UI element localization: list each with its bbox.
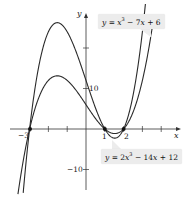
tick-label-10: 10 — [89, 85, 99, 93]
eq-part: = — [106, 18, 117, 27]
eq-part: + 6 — [145, 18, 161, 27]
eq-part: − 7 — [125, 18, 141, 27]
eq-part: − 14 — [133, 153, 154, 162]
callout-equation-top: y = x3 − 7x + 6 — [98, 14, 165, 29]
tick-label-2: 2 — [124, 133, 129, 141]
y-axis-label: y — [77, 10, 82, 18]
curve-2x3-14x-12 — [23, 4, 145, 193]
tick-label-1: 1 — [102, 133, 107, 141]
x-axis — [10, 127, 181, 131]
eq-part: = 2 — [109, 153, 125, 162]
tick-label-neg10: −10 — [67, 166, 83, 174]
eq-part: + 12 — [157, 153, 178, 162]
x-axis-label: x — [174, 132, 179, 140]
y-axis — [84, 13, 88, 190]
tick-label-neg3: −3 — [18, 132, 29, 140]
chart-plot — [0, 0, 187, 199]
callout-equation-bottom: y = 2x3 − 14x + 12 — [101, 149, 182, 164]
